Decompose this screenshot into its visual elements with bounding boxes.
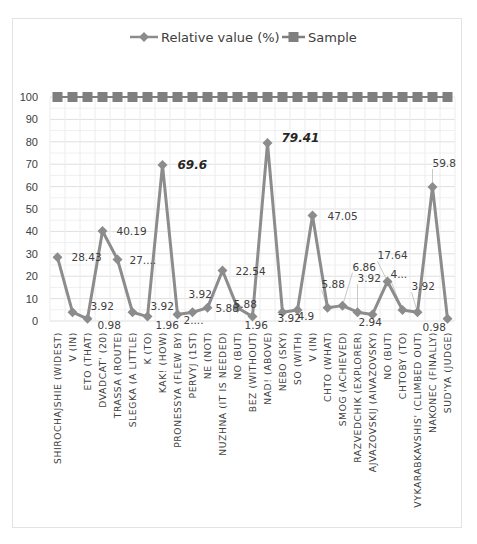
square-marker-icon (128, 92, 138, 102)
x-category-label: V (IN) (307, 332, 318, 362)
square-marker-icon (83, 92, 93, 102)
diamond-marker-icon (218, 266, 228, 276)
square-marker-icon (263, 92, 273, 102)
legend-item-relative-value: Relative value (%) (130, 30, 280, 45)
data-label: 2.... (184, 314, 204, 326)
data-label: 2.94 (359, 316, 383, 328)
square-marker-icon (289, 32, 299, 42)
x-category-label: NAD! (ABOVE) (262, 332, 273, 405)
diamond-marker-icon (308, 211, 318, 221)
diamond-marker-icon (428, 182, 438, 192)
data-label: 5.88 (322, 278, 345, 290)
line-chart: Relative value (%) Sample 01020304050607… (0, 0, 477, 544)
x-category-label: TRASSA (ROUTE) (112, 332, 123, 419)
square-marker-icon (68, 92, 78, 102)
x-category-label: SUD'YA (JUDGE) (442, 332, 453, 413)
x-category-label: K (TO) (142, 332, 153, 365)
data-label: 79.41 (282, 131, 320, 145)
legend-label: Sample (308, 30, 357, 45)
x-category-label: CHTOBY (TO) (397, 332, 408, 399)
y-tick-label: 20 (26, 270, 38, 282)
x-category-label: NAKONEC (FINALLY) (427, 332, 438, 433)
data-label: 3.92 (91, 300, 114, 312)
diamond-marker-icon (143, 312, 153, 322)
y-tick-label: 40 (26, 225, 38, 237)
data-label: 3.92 (412, 280, 435, 292)
square-marker-icon (188, 92, 198, 102)
square-marker-icon (98, 92, 108, 102)
diamond-marker-icon (68, 307, 78, 317)
y-tick-label: 90 (26, 113, 38, 125)
square-marker-icon (143, 92, 153, 102)
x-category-label: KAK! (HOW) (157, 332, 168, 393)
x-category-label: NE (NOT) (202, 332, 213, 379)
square-marker-icon (353, 92, 363, 102)
data-label: 22.54 (236, 265, 266, 277)
data-label: 28.43 (72, 251, 102, 263)
y-tick-label: 60 (26, 181, 38, 193)
diamond-marker-icon (128, 307, 138, 317)
square-marker-icon (428, 92, 438, 102)
x-axis-labels: SHIROCHAJSHIE (WIDEST)V (IN)ETO (THAT)DV… (52, 332, 453, 508)
data-label: 59.8 (433, 157, 456, 169)
diamond-marker-icon (323, 303, 333, 313)
y-tick-label: 80 (26, 136, 38, 148)
x-category-label: V (IN) (67, 332, 78, 362)
x-category-label: NO (BUT) (382, 332, 393, 380)
data-label: 4... (391, 268, 408, 280)
legend-item-sample: Sample (282, 30, 357, 45)
data-label: 0.98 (423, 321, 446, 333)
data-label: 69.6 (178, 158, 208, 172)
square-marker-icon (218, 92, 228, 102)
square-marker-icon (443, 92, 453, 102)
x-category-label: SMOG (ACHIEVED) (337, 332, 348, 426)
square-marker-icon (383, 92, 393, 102)
diamond-marker-icon (203, 303, 213, 313)
x-category-label: SLEGKA (A LITTLE) (127, 332, 138, 427)
x-category-label: SO (WITH) (292, 332, 303, 385)
data-label: 1.96 (245, 319, 269, 331)
x-category-label: AJVAZOVSKIJ (AIVAZOVSKY) (367, 332, 378, 472)
diamond-marker-icon (83, 314, 93, 324)
data-label: 27.... (130, 254, 157, 266)
x-category-label: DVADCAT' (20) (97, 332, 108, 408)
data-label: 3.92 (151, 300, 174, 312)
square-marker-icon (203, 92, 213, 102)
x-category-label: SHIROCHAJSHIE (WIDEST) (52, 332, 63, 464)
square-marker-icon (53, 92, 63, 102)
square-marker-icon (293, 92, 303, 102)
y-tick-label: 30 (26, 248, 38, 260)
square-marker-icon (413, 92, 423, 102)
data-label: 3.92 (358, 272, 381, 284)
square-marker-icon (398, 92, 408, 102)
diamond-marker-icon (263, 138, 273, 148)
diamond-marker-icon (338, 301, 348, 311)
x-category-label: BEZ (WITHOUT) (247, 332, 258, 412)
data-label: 1.96 (156, 319, 180, 331)
x-category-label: RAZVEDCHIK (EXPLORER) (352, 332, 363, 463)
x-category-label: NUZHNA (IT IS NEEDED) (217, 332, 228, 456)
square-marker-icon (158, 92, 168, 102)
x-category-label: NEBO (SKY) (277, 332, 288, 391)
diamond-marker-icon (413, 307, 423, 317)
data-label: 3.92 (189, 288, 212, 300)
data-label: 0.98 (98, 319, 121, 331)
data-label: 5.88 (234, 298, 257, 310)
square-marker-icon (113, 92, 123, 102)
y-tick-label: 70 (26, 158, 38, 170)
data-label: 47.05 (328, 210, 358, 222)
y-axis: 0102030405060708090100 (20, 91, 38, 327)
square-marker-icon (368, 92, 378, 102)
data-label: 6.86 (353, 261, 377, 273)
data-label: 4.9 (298, 310, 315, 322)
square-marker-icon (248, 92, 258, 102)
x-category-label: PERVYJ (1ST) (187, 332, 198, 398)
x-category-label: VYKARABKAVSHIS' (CLIMBED OUT) (412, 332, 423, 508)
chart-legend: Relative value (%) Sample (130, 30, 357, 45)
x-category-label: CHTO (WHAT) (322, 332, 333, 402)
y-tick-label: 100 (20, 91, 38, 103)
square-marker-icon (173, 92, 183, 102)
square-marker-icon (308, 92, 318, 102)
square-marker-icon (278, 92, 288, 102)
data-label: 40.19 (117, 225, 147, 237)
